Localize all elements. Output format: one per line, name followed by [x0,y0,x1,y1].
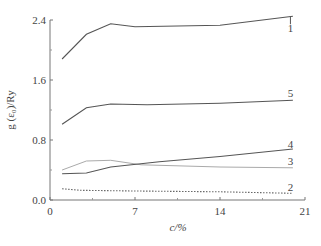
series-line-2 [62,189,293,194]
curve-label-3: 3 [288,155,294,167]
x-tick-label: 14 [215,205,227,217]
y-tick-label: 2.4 [32,14,46,26]
x-tick-label: 7 [132,205,138,217]
series-line-1 [62,16,293,59]
x-tick-label: 21 [300,205,311,217]
curve-label-4: 4 [288,138,294,150]
x-axis-title: c/% [169,221,186,233]
series-line-5 [62,100,293,124]
curve-label-5: 5 [288,87,294,99]
y-axis-title: g (ε₀)/Ry [4,90,17,130]
series-line-4 [62,149,293,174]
line-chart: 0.00.81.62.4071421 15432 c/% g (ε₀)/Ry [0,0,321,246]
y-tick-label: 1.6 [32,74,46,86]
series-group [62,16,293,193]
axes: 0.00.81.62.4071421 [32,14,310,217]
x-tick-label: 0 [47,205,53,217]
curve-label-2: 2 [288,181,294,193]
curve-label-1: 1 [288,22,294,34]
y-tick-label: 0.8 [32,134,46,146]
curve-labels: 15432 [288,22,294,193]
y-tick-label: 0.0 [32,194,46,206]
series-line-3 [62,160,293,170]
